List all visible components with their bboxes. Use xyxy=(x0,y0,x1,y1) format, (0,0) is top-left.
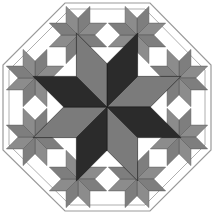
star-quilt-graphic xyxy=(0,0,214,215)
quilt-block xyxy=(0,0,214,215)
